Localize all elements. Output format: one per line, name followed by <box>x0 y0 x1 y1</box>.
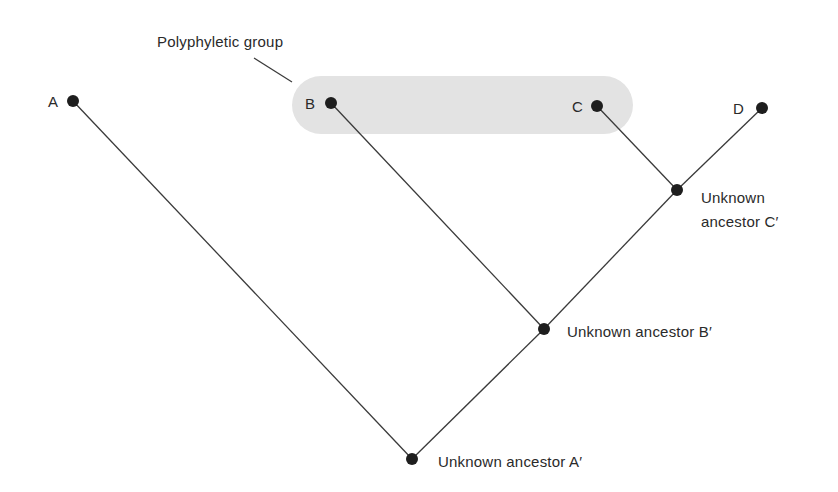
node-c <box>591 100 603 112</box>
node-b-prime <box>538 323 550 335</box>
edge-b-to-b-prime <box>331 103 544 329</box>
ancestor-c-prime-label-line2: ancestor C′ <box>701 212 779 231</box>
ancestor-b-prime-label: Unknown ancestor B′ <box>567 322 712 341</box>
node-a <box>67 95 79 107</box>
group-leader-line <box>254 58 292 82</box>
node-c-prime <box>671 184 683 196</box>
polyphyletic-group-label: Polyphyletic group <box>157 32 283 51</box>
taxon-b-label: B <box>305 94 315 113</box>
edge-a-to-a-prime <box>73 101 412 459</box>
node-d <box>756 102 768 114</box>
edge-b-prime-to-c-prime <box>544 190 677 329</box>
taxon-c-label: C <box>572 97 583 116</box>
taxon-a-label: A <box>48 92 58 111</box>
node-a-prime <box>406 453 418 465</box>
taxon-d-label: D <box>733 99 744 118</box>
ancestor-a-prime-label: Unknown ancestor A′ <box>438 452 582 471</box>
phylogenetic-tree <box>0 0 838 492</box>
edge-a-prime-to-b-prime <box>412 329 544 459</box>
edge-c-prime-to-d <box>677 108 762 190</box>
edge-c-to-c-prime <box>597 106 677 190</box>
ancestor-c-prime-label-line1: Unknown <box>701 188 765 207</box>
node-b <box>325 97 337 109</box>
